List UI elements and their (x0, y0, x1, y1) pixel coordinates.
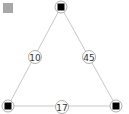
square-node-icon (58, 4, 65, 11)
node-bottom-right[interactable] (110, 100, 122, 112)
edge-weight-label[interactable]: 10 (29, 51, 42, 64)
edge-weight-label[interactable]: 17 (56, 101, 69, 114)
graph-diagram: 104517 (0, 0, 129, 114)
node-bottom-left[interactable] (2, 100, 14, 112)
node-top[interactable] (55, 1, 67, 13)
square-node-icon (113, 103, 120, 110)
edge-weight-text: 17 (56, 103, 67, 113)
square-node-icon (5, 103, 12, 110)
edge-weight-text: 10 (29, 53, 41, 63)
edge-weight-label[interactable]: 45 (83, 51, 96, 64)
edge-weight-text: 45 (83, 53, 94, 63)
